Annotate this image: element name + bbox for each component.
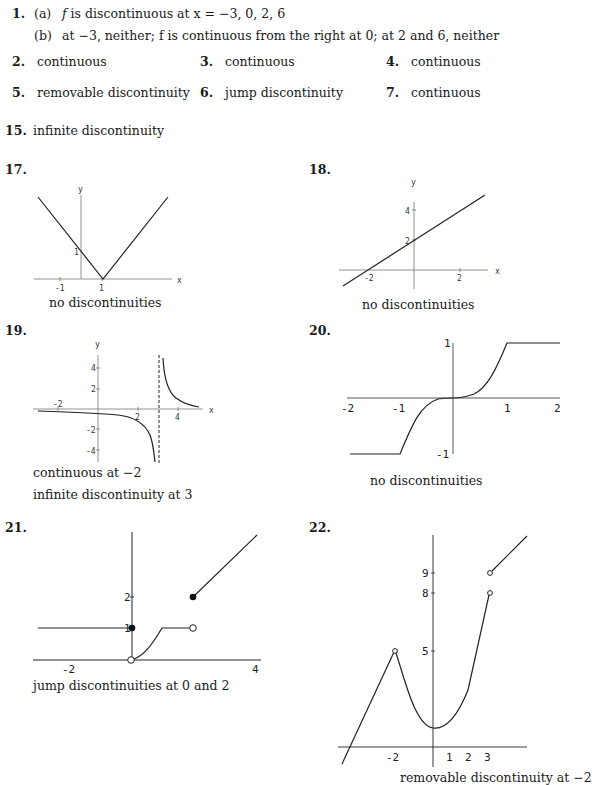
svg-text:2: 2 xyxy=(465,751,472,764)
graph-caption: removable discontinuity at −2 xyxy=(400,772,592,785)
svg-text:5: 5 xyxy=(422,645,429,658)
svg-text:1: 1 xyxy=(446,751,453,764)
svg-text:3: 3 xyxy=(484,751,491,764)
svg-text:8: 8 xyxy=(422,587,429,600)
svg-text:-2: -2 xyxy=(386,751,399,764)
svg-text:9: 9 xyxy=(422,567,429,580)
